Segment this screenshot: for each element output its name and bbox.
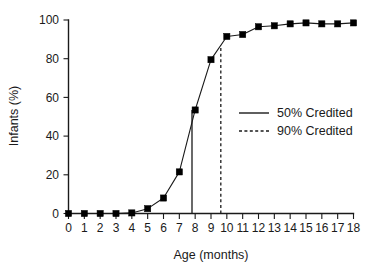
data-point-marker <box>224 33 230 39</box>
x-tick-label: 16 <box>315 221 329 235</box>
data-point-marker <box>255 24 261 30</box>
x-axis-title: Age (months) <box>173 248 248 262</box>
data-point-marker <box>303 20 309 26</box>
x-tick-label: 17 <box>331 221 345 235</box>
x-tick-label: 8 <box>192 221 199 235</box>
x-tick-label: 3 <box>113 221 120 235</box>
data-point-marker <box>240 31 246 37</box>
x-tick-label: 5 <box>144 221 151 235</box>
data-point-marker <box>97 210 103 216</box>
y-axis-title: Infants (%) <box>7 86 21 146</box>
x-tick-label: 7 <box>176 221 183 235</box>
x-tick-label: 2 <box>97 221 104 235</box>
legend-label: 50% Credited <box>277 106 353 120</box>
data-point-marker <box>319 21 325 27</box>
x-tick-label: 9 <box>208 221 215 235</box>
y-tick-label: 0 <box>52 207 59 221</box>
x-tick-label: 12 <box>252 221 266 235</box>
x-tick-label: 11 <box>236 221 249 235</box>
legend-label: 90% Credited <box>277 124 353 138</box>
data-point-marker <box>160 195 166 201</box>
data-point-marker <box>65 210 71 216</box>
line-chart: 020406080100 012345678910111213141516171… <box>0 0 373 271</box>
x-tick-label: 1 <box>81 221 88 235</box>
data-point-marker <box>271 23 277 29</box>
x-tick-label: 14 <box>283 221 297 235</box>
x-tick-label: 10 <box>220 221 234 235</box>
data-point-marker <box>350 20 356 26</box>
data-point-marker <box>287 21 293 27</box>
x-tick-label: 18 <box>347 221 361 235</box>
y-tick-label: 60 <box>46 91 60 105</box>
x-tick-label: 4 <box>128 221 135 235</box>
x-tick-label: 15 <box>299 221 313 235</box>
data-point-marker <box>176 169 182 175</box>
data-point-marker <box>145 206 151 212</box>
y-tick-label: 40 <box>46 129 60 143</box>
chart-figure: 020406080100 012345678910111213141516171… <box>0 0 373 271</box>
data-point-marker <box>129 210 135 216</box>
x-tick-label: 0 <box>65 221 72 235</box>
x-tick-label: 13 <box>268 221 282 235</box>
data-point-marker <box>81 210 87 216</box>
x-tick-label: 6 <box>160 221 167 235</box>
y-tick-label: 80 <box>46 52 60 66</box>
data-point-marker <box>192 107 198 113</box>
y-tick-label: 100 <box>39 13 59 27</box>
data-point-marker <box>335 21 341 27</box>
data-point-marker <box>208 57 214 63</box>
data-point-marker <box>113 210 119 216</box>
y-tick-label: 20 <box>46 168 60 182</box>
